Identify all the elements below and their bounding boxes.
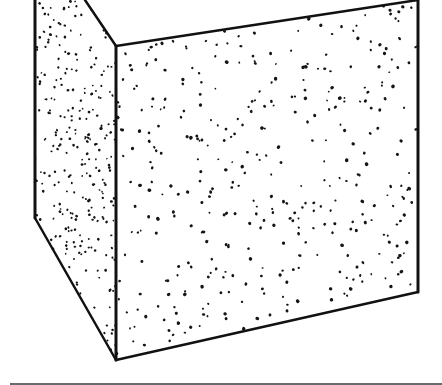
cube-illustration: [0, 0, 442, 385]
cube-front-face: [116, 0, 418, 360]
cube-drawing: [0, 0, 442, 385]
